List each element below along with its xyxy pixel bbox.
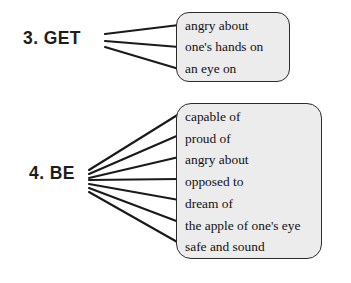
list-item: capable of xyxy=(185,106,321,128)
connector-get-1 xyxy=(105,25,179,34)
list-item: the apple of one's eye xyxy=(185,215,321,237)
list-item: opposed to xyxy=(185,171,321,193)
list-item: proud of xyxy=(185,128,321,150)
list-item: angry about xyxy=(185,149,321,171)
connector-be-1 xyxy=(89,114,179,170)
phrase-list-get: angry about one's hands on an eye on xyxy=(185,15,289,79)
phrase-box-be: capable of proud of angry about opposed … xyxy=(176,103,322,259)
group-label-get: 3. GET xyxy=(23,28,81,49)
list-item: an eye on xyxy=(185,58,289,79)
connector-be-4 xyxy=(89,179,179,180)
collocation-diagram: 3. GET 4. BE angry about one's hands on … xyxy=(0,0,351,283)
connector-get-2 xyxy=(105,41,179,47)
phrase-list-be: capable of proud of angry about opposed … xyxy=(185,106,321,258)
list-item: safe and sound xyxy=(185,236,321,258)
list-item: dream of xyxy=(185,193,321,215)
list-item: one's hands on xyxy=(185,36,289,57)
list-item: angry about xyxy=(185,15,289,36)
group-label-be: 4. BE xyxy=(29,163,75,184)
phrase-box-get: angry about one's hands on an eye on xyxy=(176,12,290,82)
connector-get-3 xyxy=(105,47,179,69)
